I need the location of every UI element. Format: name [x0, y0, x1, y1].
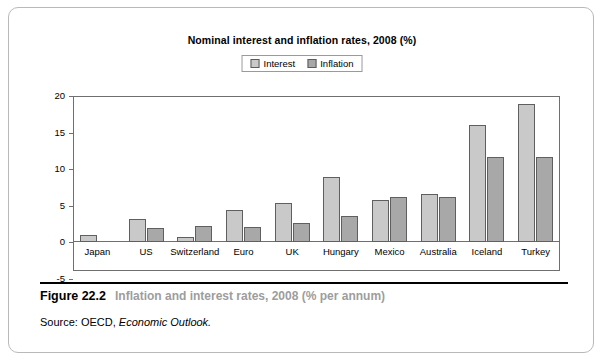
y-axis-tick-mark [69, 242, 73, 243]
chart-container: Nominal interest and inflation rates, 20… [9, 8, 595, 280]
figure-caption-text: Inflation and interest rates, 2008 (% pe… [115, 289, 385, 303]
bar-series-container [73, 96, 560, 242]
bar-inflation-us [147, 228, 164, 242]
y-axis-tick-label: 5 [25, 200, 65, 211]
bar-interest-japan [80, 235, 97, 242]
page-root: Nominal interest and inflation rates, 20… [0, 0, 606, 363]
bar-inflation-iceland [487, 157, 504, 242]
figure-panel: Nominal interest and inflation rates, 20… [8, 7, 594, 353]
bar-interest-switzerland [177, 237, 194, 242]
bar-inflation-uk [293, 223, 310, 242]
source-label: Source: OECD, [40, 316, 119, 328]
source-publication: Economic Outlook. [119, 316, 211, 328]
y-axis-tick-label: 10 [25, 163, 65, 174]
bar-interest-iceland [469, 125, 486, 242]
bar-interest-turkey [518, 104, 535, 242]
bar-inflation-euro [244, 227, 261, 242]
y-axis-tick-mark [69, 279, 73, 280]
bar-interest-hungary [323, 177, 340, 242]
legend-label-interest: Interest [264, 58, 296, 69]
bar-inflation-mexico [390, 197, 407, 242]
bar-interest-mexico [372, 200, 389, 242]
chart-legend: Interest Inflation [242, 55, 363, 72]
bar-interest-euro [226, 210, 243, 242]
bar-inflation-turkey [536, 157, 553, 242]
legend-label-inflation: Inflation [320, 58, 353, 69]
bar-inflation-hungary [341, 216, 358, 242]
y-axis-tick-label: 15 [25, 127, 65, 138]
bar-inflation-switzerland [195, 226, 212, 242]
bar-inflation-australia [439, 197, 456, 242]
legend-item-interest: Interest [251, 58, 296, 69]
figure-caption: Figure 22.2 Inflation and interest rates… [40, 289, 385, 303]
y-axis-tick-label: 20 [25, 90, 65, 101]
bar-interest-uk [275, 203, 292, 242]
bar-interest-australia [421, 194, 438, 242]
legend-swatch-inflation [307, 59, 316, 68]
x-axis-label-turkey: Turkey [496, 246, 576, 257]
chart-title: Nominal interest and inflation rates, 20… [9, 34, 595, 46]
caption-divider [40, 282, 568, 284]
figure-number: Figure 22.2 [40, 289, 106, 303]
bar-interest-us [129, 219, 146, 242]
legend-swatch-interest [251, 59, 260, 68]
legend-item-inflation: Inflation [307, 58, 353, 69]
source-line: Source: OECD, Economic Outlook. [40, 316, 211, 328]
